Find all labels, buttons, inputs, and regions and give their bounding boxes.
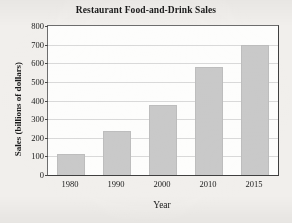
y-tick-label: 200 [31, 133, 44, 142]
y-tick-label: 800 [31, 22, 44, 31]
y-tick-label: 400 [31, 96, 44, 105]
y-tick-mark [45, 175, 48, 176]
plot-area: 0100200300400500600700800 [47, 25, 279, 176]
y-tick-label: 100 [31, 152, 44, 161]
y-tick-label: 0 [40, 171, 44, 180]
x-tick-label: 1990 [108, 179, 125, 189]
bar-series [48, 26, 278, 175]
x-axis-title: Year [42, 200, 282, 211]
x-tick-label: 2000 [154, 179, 171, 189]
x-tick-label: 1980 [62, 179, 79, 189]
y-tick-label: 300 [31, 115, 44, 124]
bar [195, 67, 223, 175]
bar [57, 154, 85, 175]
bar [241, 45, 269, 175]
y-axis-title: Sales (billions of dollars) [13, 39, 23, 179]
bar [103, 131, 131, 175]
y-tick-label: 700 [31, 40, 44, 49]
y-tick-label: 500 [31, 77, 44, 86]
chart-figure: Restaurant Food-and-Drink Sales Sales (b… [0, 0, 292, 223]
x-tick-label: 2010 [200, 179, 217, 189]
bar [149, 105, 177, 175]
x-tick-label: 2015 [246, 179, 263, 189]
chart-title: Restaurant Food-and-Drink Sales [0, 5, 292, 16]
y-tick-label: 600 [31, 59, 44, 68]
